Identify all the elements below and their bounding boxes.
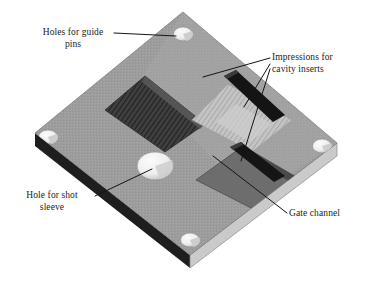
label-hole-for-shot-sleeve: Hole for shot sleeve bbox=[12, 190, 92, 213]
label-impressions-for-cavity-inserts: Impressions for cavity inserts bbox=[272, 52, 364, 75]
label-holes-for-guide-pins: Holes for guide pins bbox=[34, 27, 112, 50]
figure-container: Holes for guide pins Impressions for cav… bbox=[0, 0, 365, 290]
label-gate-channel: Gate channel bbox=[289, 208, 365, 220]
